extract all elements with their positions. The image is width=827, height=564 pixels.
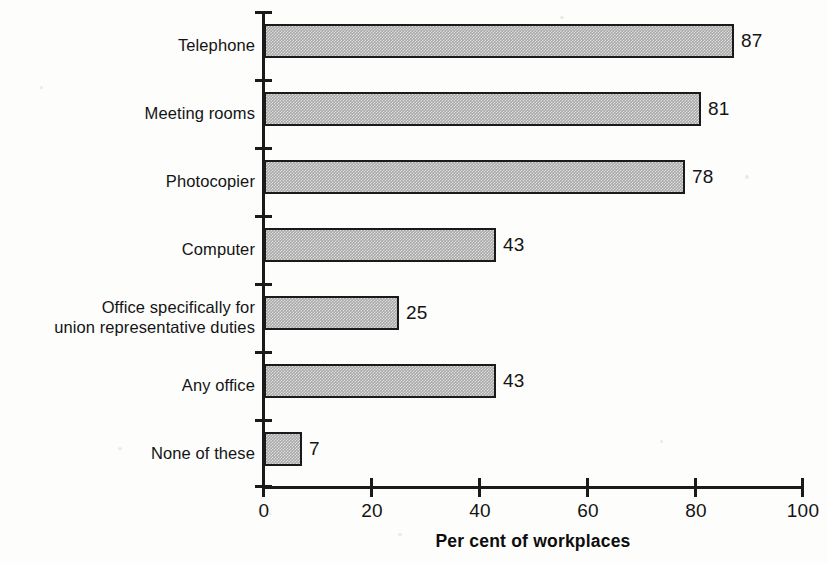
category-label-meeting-rooms: Meeting rooms [145, 103, 255, 123]
x-axis-tick [370, 478, 373, 497]
bar-value-meeting-rooms: 81 [708, 92, 730, 126]
x-axis-tick-label: 100 [773, 500, 827, 522]
y-axis-tick [255, 351, 272, 354]
category-label-office-for-union-duties: Office specifically for union representa… [54, 297, 255, 337]
bar-value-computer: 43 [503, 228, 525, 262]
x-axis-tick-label: 40 [450, 500, 510, 522]
bar-telephone [264, 24, 734, 58]
bar-value-office-for-union-duties: 25 [406, 296, 428, 330]
scan-speckle [660, 440, 663, 443]
category-label-computer: Computer [182, 239, 255, 259]
x-axis-tick [478, 478, 481, 497]
bar-office-for-union-duties [264, 296, 399, 330]
bar-value-any-office: 43 [503, 364, 525, 398]
bar-photocopier [264, 160, 685, 194]
category-label-telephone: Telephone [178, 35, 255, 55]
x-axis-tick-label: 20 [342, 500, 402, 522]
y-axis-tick [255, 79, 272, 82]
x-axis-tick-label: 0 [234, 500, 294, 522]
scan-speckle [118, 447, 122, 450]
x-axis-tick [586, 478, 589, 497]
bar-any-office [264, 364, 496, 398]
y-axis-tick [255, 11, 272, 14]
bar-none-of-these [264, 432, 302, 466]
x-axis-tick [262, 478, 265, 497]
bar-computer [264, 228, 496, 262]
scan-speckle [40, 86, 43, 89]
bar-value-telephone: 87 [741, 24, 763, 58]
scan-speckle [745, 175, 749, 179]
bar-value-none-of-these: 7 [309, 432, 320, 466]
y-axis-tick [255, 283, 272, 286]
y-axis-tick [255, 215, 272, 218]
x-axis-tick-label: 60 [558, 500, 618, 522]
y-axis-tick [255, 147, 272, 150]
category-label-photocopier: Photocopier [166, 171, 255, 191]
scan-speckle [560, 16, 564, 19]
category-label-none-of-these: None of these [151, 443, 255, 463]
bar-value-photocopier: 78 [692, 160, 714, 194]
bar-chart: 0 20 40 60 80 100 Telephone Meeting room… [0, 0, 827, 564]
y-axis-tick [255, 419, 272, 422]
x-axis-tick-label: 80 [666, 500, 726, 522]
x-axis-line [262, 486, 804, 489]
category-label-any-office: Any office [182, 375, 255, 395]
x-axis-title: Per cent of workplaces [262, 531, 804, 552]
bar-meeting-rooms [264, 92, 701, 126]
x-axis-tick [801, 478, 804, 497]
x-axis-tick [694, 478, 697, 497]
